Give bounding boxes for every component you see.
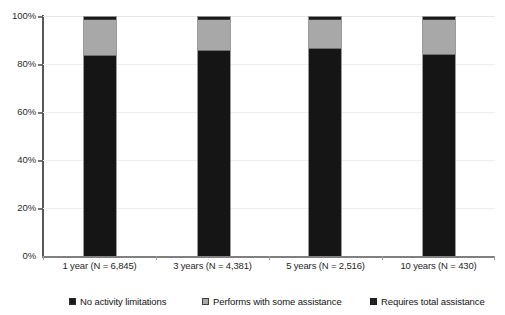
legend-label-requires-total-assistance: Requires total assistance <box>381 296 485 307</box>
legend-swatch-icon-requires-total-assistance <box>370 298 377 305</box>
y-axis-label-100: 100% <box>4 11 36 21</box>
segment-performs-with-some-assistance <box>84 20 116 56</box>
y-axis-labels: 100% 80% 60% 40% 20% 0% <box>0 0 36 315</box>
legend-swatch-icon-no-activity-limitations <box>69 298 76 305</box>
legend-item-requires-total-assistance: Requires total assistance <box>370 296 485 307</box>
legend-swatch-icon-performs-with-some-assistance <box>202 298 209 305</box>
y-axis-label-0: 0% <box>4 251 36 261</box>
bar-group-1-year <box>83 16 117 256</box>
y-axis-label-40: 40% <box>4 155 36 165</box>
x-axis-label-3-years: 3 years (N = 4,381) <box>156 260 269 272</box>
legend-label-no-activity-limitations: No activity limitations <box>80 296 166 307</box>
legend-item-performs-with-some-assistance: Performs with some assistance <box>202 296 342 307</box>
segment-performs-with-some-assistance <box>423 20 455 55</box>
stacked-bar-chart: 100% 80% 60% 40% 20% 0% <box>0 0 505 315</box>
y-axis-label-60: 60% <box>4 107 36 117</box>
x-axis-label-10-years: 10 years (N = 430) <box>382 260 495 272</box>
segment-no-activity-limitations <box>309 49 341 256</box>
x-axis-label-1-year: 1 year (N = 6,845) <box>43 260 156 272</box>
segment-no-activity-limitations <box>423 55 455 256</box>
y-axis-label-80: 80% <box>4 59 36 69</box>
legend-label-performs-with-some-assistance: Performs with some assistance <box>213 296 342 307</box>
segment-no-activity-limitations <box>84 56 116 256</box>
bar-group-10-years <box>422 16 456 256</box>
segment-performs-with-some-assistance <box>198 20 230 51</box>
segment-performs-with-some-assistance <box>309 20 341 49</box>
x-axis-label-5-years: 5 years (N = 2,516) <box>269 260 382 272</box>
chart-legend: No activity limitations Performs with so… <box>0 290 505 312</box>
legend-item-no-activity-limitations: No activity limitations <box>69 296 166 307</box>
bar-group-5-years <box>308 16 342 256</box>
segment-no-activity-limitations <box>198 51 230 256</box>
bar-group-3-years <box>197 16 231 256</box>
y-axis-label-20: 20% <box>4 203 36 213</box>
plot-area <box>43 16 495 256</box>
